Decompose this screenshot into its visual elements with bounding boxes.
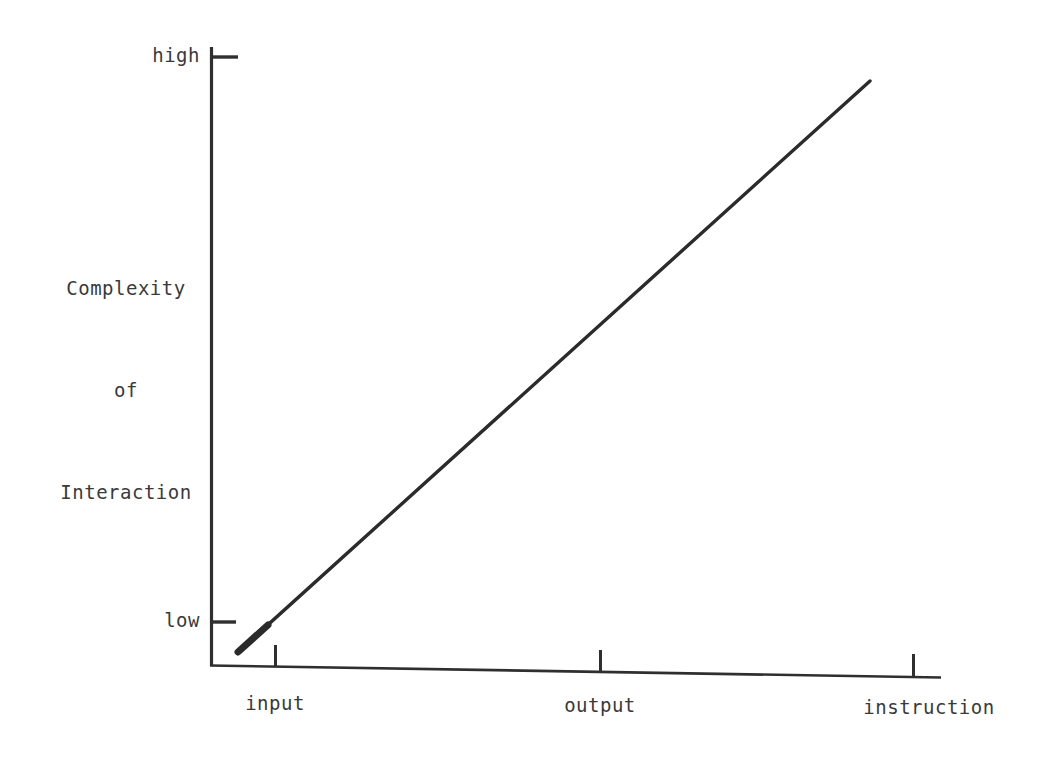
x-tick-label-input: input bbox=[195, 692, 355, 714]
data-series-complexity-trend bbox=[238, 81, 870, 652]
y-axis-title-line-3: Interaction bbox=[16, 475, 236, 509]
chart-figure: high low Complexity of Interaction input… bbox=[0, 0, 1062, 760]
data-line bbox=[240, 81, 870, 650]
x-tick-label-instruction: instruction bbox=[829, 696, 1029, 718]
y-tick-label-low: low bbox=[60, 609, 200, 631]
x-axis-line bbox=[210, 666, 941, 678]
x-tick-label-output: output bbox=[520, 694, 680, 716]
y-axis-title-line-2: of bbox=[16, 373, 236, 407]
y-axis-title: Complexity of Interaction bbox=[16, 203, 236, 577]
y-axis-title-line-1: Complexity bbox=[16, 271, 236, 305]
y-tick-label-high: high bbox=[60, 44, 200, 66]
